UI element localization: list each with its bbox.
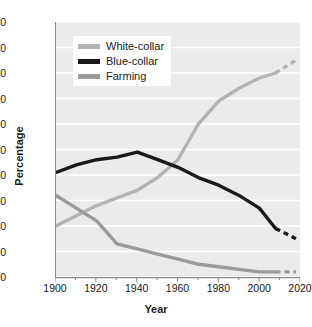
y-tick-label: 40: [0, 170, 6, 181]
legend: White-collarBlue-collarFarming: [73, 36, 171, 86]
y-tick-label: 70: [0, 93, 6, 104]
legend-label: White-collar: [106, 40, 164, 52]
x-axis-title: Year: [0, 303, 312, 315]
y-tick-label: 50: [0, 144, 6, 155]
series-line-farming: [56, 195, 276, 272]
legend-item-farming: Farming: [78, 70, 164, 82]
y-tick-label: 0: [0, 272, 6, 283]
x-axis-tickmarks: [55, 277, 300, 285]
y-axis-title: Percentage: [13, 111, 25, 201]
legend-swatch-icon: [78, 44, 100, 49]
series-projection-blue-collar: [276, 229, 296, 239]
legend-item-white-collar: White-collar: [78, 40, 164, 52]
y-tick-label: 10: [0, 246, 6, 257]
y-tick-label: 90: [0, 42, 6, 53]
y-tick-label: 20: [0, 221, 6, 232]
y-tick-label: 100: [0, 17, 6, 28]
employment-composition-line-chart: 0102030405060708090100 19001920194019601…: [0, 0, 312, 327]
y-tick-label: 60: [0, 119, 6, 130]
series-lines: [56, 60, 296, 272]
y-tick-label: 80: [0, 68, 6, 79]
y-tick-label: 30: [0, 195, 6, 206]
legend-label: Farming: [106, 70, 146, 82]
legend-label: Blue-collar: [106, 55, 158, 67]
legend-swatch-icon: [78, 74, 100, 79]
legend-swatch-icon: [78, 59, 100, 64]
legend-item-blue-collar: Blue-collar: [78, 55, 164, 67]
series-projection-white-collar: [276, 60, 296, 73]
